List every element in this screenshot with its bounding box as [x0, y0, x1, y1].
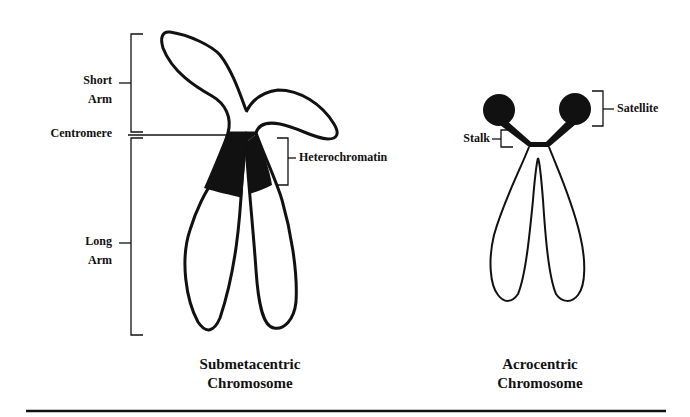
acrocentric-left-chromatid — [491, 147, 538, 301]
short-arm-left-chromatid — [162, 32, 246, 133]
short-arm-right-chromatid — [246, 90, 337, 139]
long-arm-bracket — [131, 138, 143, 335]
centromere-label: Centromere — [20, 124, 112, 143]
long-arm-label-line2: Arm — [56, 251, 112, 270]
heterochromatin-label: Heterochromatin — [299, 148, 387, 167]
heterochromatin-bracket — [277, 138, 288, 185]
short-arm-label: Short Arm — [56, 71, 112, 109]
satellite-bracket — [592, 91, 603, 126]
satellite-left — [483, 94, 515, 126]
submetacentric-caption-line1: Submetacentric — [150, 355, 350, 374]
acrocentric-right-chromatid — [538, 147, 584, 301]
short-arm-label-line1: Short — [56, 71, 112, 90]
acrocentric-caption-line1: Acrocentric — [460, 355, 620, 374]
acrocentric-caption: Acrocentric Chromosome — [460, 355, 620, 393]
long-arm-label: Long Arm — [56, 232, 112, 270]
satellite-right — [559, 93, 591, 125]
submetacentric-caption: Submetacentric Chromosome — [150, 355, 350, 393]
acrocentric-caption-line2: Chromosome — [460, 374, 620, 393]
short-arm-label-line2: Arm — [56, 90, 112, 109]
long-arm-label-line1: Long — [56, 232, 112, 251]
short-arm-bracket — [131, 34, 143, 132]
satellite-label: Satellite — [617, 99, 658, 118]
acrocentric-chromosome — [483, 93, 591, 301]
stalk — [500, 118, 576, 147]
stalk-label: Stalk — [440, 129, 490, 148]
heterochromatin-bands — [204, 133, 272, 198]
submetacentric-caption-line2: Chromosome — [150, 374, 350, 393]
